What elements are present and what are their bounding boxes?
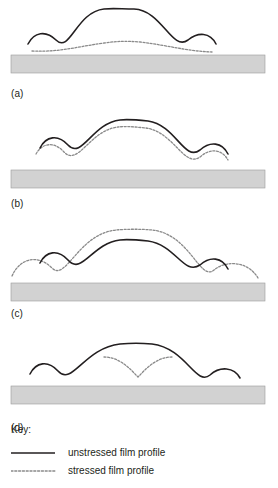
panel-label-a: (a) [11, 88, 24, 100]
panel-b-graphic [0, 110, 278, 220]
substrate-bar-c [11, 283, 265, 301]
panel-c-graphic [0, 220, 278, 330]
panel-a: (a) [0, 0, 278, 110]
unstressed-film-curve-c [40, 240, 228, 269]
unstressed-film-curve-b [40, 120, 228, 154]
key-line-dashed-icon [11, 464, 57, 478]
unstressed-film-curve-a [28, 9, 216, 44]
panel-b: (b) [0, 110, 278, 220]
film-profile-figure: (a) (b) (c) (d) Key: [0, 0, 278, 488]
key-label-stressed: stressed film profile [68, 464, 154, 478]
unstressed-film-curve-d [30, 343, 240, 378]
substrate-bar-a [11, 55, 265, 73]
panel-label-b: (b) [11, 198, 24, 210]
key-line-solid-icon [11, 446, 57, 460]
stressed-film-curve-d [104, 357, 172, 377]
key-title: Key: [11, 424, 31, 436]
panel-a-graphic [0, 0, 278, 110]
panel-label-c: (c) [11, 308, 23, 320]
key-legend: Key: unstressed film profile stressed fi… [0, 424, 278, 488]
substrate-bar-d [11, 386, 265, 404]
substrate-bar-b [11, 170, 265, 188]
panel-c: (c) [0, 220, 278, 330]
key-label-unstressed: unstressed film profile [68, 446, 165, 460]
stressed-film-curve-b [36, 127, 228, 160]
